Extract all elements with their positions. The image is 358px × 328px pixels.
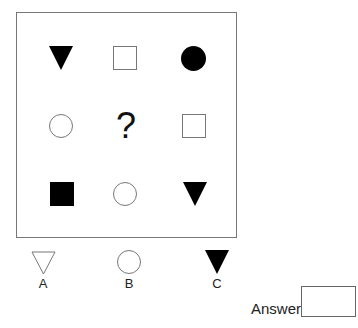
- missing-cell-question-mark: ?: [111, 108, 141, 144]
- triangle-outline-icon: [31, 251, 56, 276]
- square-filled-icon: [50, 182, 74, 206]
- option-b-label: B: [119, 276, 139, 291]
- answer-label: Answer: [251, 300, 301, 317]
- option-c[interactable]: [205, 250, 229, 274]
- square-outline-icon: [113, 46, 137, 70]
- option-c-label: C: [207, 276, 227, 291]
- square-outline-icon: [182, 114, 206, 138]
- circle-filled-icon: [181, 46, 206, 71]
- triangle-filled-icon: [49, 46, 73, 70]
- triangle-filled-icon: [183, 182, 207, 206]
- circle-outline-icon: [49, 114, 73, 138]
- option-b[interactable]: [117, 250, 141, 274]
- option-a-label: A: [33, 276, 53, 291]
- answer-input[interactable]: [301, 286, 356, 317]
- circle-outline-icon: [113, 182, 137, 206]
